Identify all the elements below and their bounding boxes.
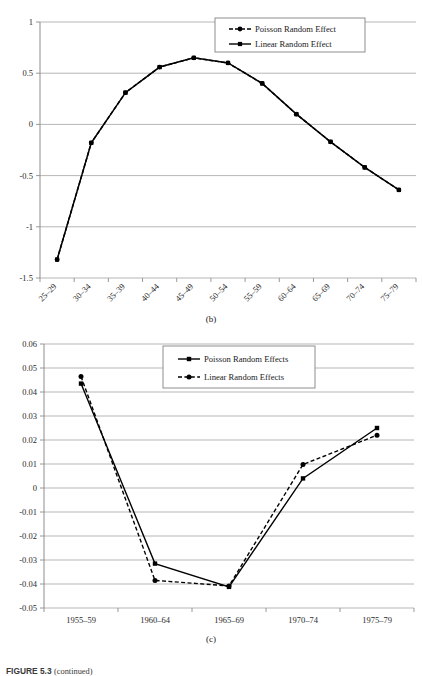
x-axis-tick-label: 65–69 [310, 281, 332, 303]
y-axis-tick-label: 0.03 [22, 411, 37, 421]
data-point-marker [301, 462, 306, 467]
panel-b-group: 10.50-0.5-1-1.525–2930–3435–3940–4445–49… [20, 17, 416, 324]
data-point-marker [89, 141, 93, 145]
data-point-marker [55, 257, 59, 261]
x-axis-tick-label: 35–39 [105, 281, 127, 303]
y-axis-tick-label: -0.02 [19, 531, 37, 541]
data-point-marker [375, 433, 380, 438]
legend-marker-square [238, 42, 242, 46]
series-line-2 [57, 58, 399, 260]
y-axis-tick-label: 0.02 [22, 435, 37, 445]
x-axis-tick-label: 40–44 [139, 281, 162, 304]
data-point-marker [158, 65, 162, 69]
data-point-marker [294, 112, 298, 116]
figure-caption: FIGURE 5.3 (continued) [6, 665, 93, 676]
legend-label: Poisson Random Effects [204, 354, 289, 364]
x-axis-tick-label: 60–64 [276, 281, 299, 304]
series-line-1 [57, 58, 399, 260]
y-axis-tick-label: 0.05 [22, 363, 37, 373]
y-axis-tick-label: -0.5 [20, 171, 33, 181]
x-axis-tick-label: 1960–64 [140, 615, 171, 625]
chart-panel-b: 10.50-0.5-1-1.525–2930–3435–3940–4445–49… [0, 0, 422, 330]
panel-c-group: 0.060.050.040.030.020.010-0.01-0.02-0.03… [19, 339, 414, 644]
legend-marker-square [187, 357, 191, 361]
y-axis-tick-label: 0 [29, 119, 33, 129]
data-point-marker [79, 381, 83, 385]
figure-caption-note: (continued) [54, 667, 93, 676]
data-point-marker [397, 188, 401, 192]
legend-marker-circle [238, 27, 243, 32]
legend-label: Poisson Random Effect [255, 24, 337, 34]
y-axis-tick-label: -0.01 [19, 507, 37, 517]
x-axis-tick-label: 70–74 [344, 281, 367, 304]
y-axis-tick-label: -0.03 [19, 555, 37, 565]
x-axis-tick-label: 30–34 [71, 281, 94, 304]
x-axis-tick-label: 1955–59 [66, 615, 96, 625]
data-point-marker [260, 81, 264, 85]
figure-caption-label: FIGURE 5.3 [6, 666, 52, 676]
y-axis-tick-label: 0.5 [22, 68, 33, 78]
data-point-marker [226, 61, 230, 65]
x-axis-tick-label: 45–49 [173, 281, 195, 303]
data-point-marker [192, 56, 196, 60]
y-axis-tick-label: -0.04 [19, 579, 37, 589]
series-line-2 [81, 376, 377, 586]
y-axis-tick-label: -0.05 [19, 603, 37, 613]
x-axis-tick-label: 25–29 [36, 281, 58, 303]
x-axis-tick-label: 1975–79 [362, 615, 392, 625]
legend-marker-circle [187, 375, 192, 380]
chart-panel-c: 0.060.050.040.030.020.010-0.01-0.02-0.03… [0, 330, 422, 650]
data-point-marker [363, 165, 367, 169]
y-axis-tick-label: -1 [26, 222, 33, 232]
data-point-marker [153, 561, 157, 565]
data-point-marker [227, 583, 232, 588]
y-axis-tick-label: 0.06 [22, 339, 37, 349]
panel-b-caption: (b) [206, 314, 217, 324]
panel-c-caption: (c) [206, 634, 216, 644]
x-axis-tick-label: 50–54 [207, 281, 230, 304]
x-axis-tick-label: 1965–69 [214, 615, 244, 625]
x-axis-tick-label: 75–79 [378, 281, 400, 303]
data-point-marker [153, 578, 158, 583]
data-point-marker [375, 426, 379, 430]
y-axis-tick-label: 0 [33, 483, 37, 493]
y-axis-tick-label: 0.04 [22, 387, 38, 397]
panel-c-plot: 0.060.050.040.030.020.010-0.01-0.02-0.03… [0, 330, 422, 650]
data-point-marker [123, 91, 127, 95]
legend-label: Linear Random Effect [255, 39, 332, 49]
legend-label: Linear Random Effects [204, 372, 285, 382]
panel-b-plot: 10.50-0.5-1-1.525–2930–3435–3940–4445–49… [0, 0, 422, 330]
data-point-marker [301, 476, 305, 480]
y-axis-tick-label: -1.5 [20, 273, 33, 283]
x-axis-tick-label: 1970–74 [288, 615, 319, 625]
data-point-marker [79, 374, 84, 379]
x-axis-tick-label: 55–59 [241, 281, 263, 303]
data-point-marker [328, 140, 332, 144]
y-axis-tick-label: 1 [29, 17, 33, 27]
series-line-1 [81, 384, 377, 587]
y-axis-tick-label: 0.01 [22, 459, 37, 469]
